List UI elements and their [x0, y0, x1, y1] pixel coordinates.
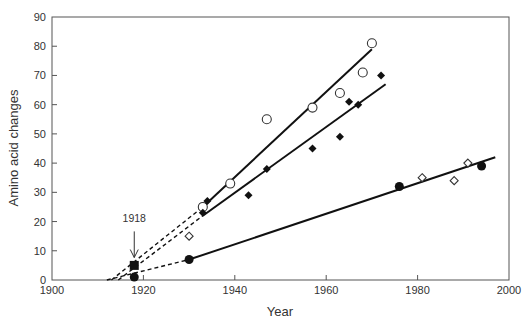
annotations: 1918	[123, 212, 147, 257]
y-tick-label: 50	[34, 128, 46, 140]
filled-diamond-marker	[308, 145, 316, 153]
open-circle-marker	[335, 88, 344, 97]
open-circle-marker	[367, 39, 376, 48]
filled-circle-marker	[395, 182, 404, 191]
plot-frame	[52, 17, 509, 280]
filled-diamond-marker	[245, 191, 253, 199]
y-axis-title: Amino acid changes	[6, 89, 21, 207]
y-tick-label: 10	[34, 245, 46, 257]
x-tick-label: 1960	[314, 284, 338, 296]
y-tick-label: 70	[34, 69, 46, 81]
filled-square-marker	[130, 261, 139, 270]
x-tick-label: 1940	[223, 284, 247, 296]
dashed-extrapolation-line	[107, 260, 189, 280]
open-circle-marker	[308, 103, 317, 112]
y-tick-label: 80	[34, 40, 46, 52]
y-tick-label: 20	[34, 216, 46, 228]
chart: 1900192019401960198020000102030405060708…	[0, 0, 530, 323]
filled-diamond-marker	[377, 71, 385, 79]
y-tick-label: 30	[34, 186, 46, 198]
annotation-label: 1918	[123, 212, 147, 224]
filled-diamond-marker	[345, 98, 353, 106]
y-tick-label: 90	[34, 11, 46, 23]
axes: 1900192019401960198020000102030405060708…	[34, 11, 521, 296]
y-tick-label: 60	[34, 99, 46, 111]
x-axis-title: Year	[267, 304, 294, 319]
filled-circle-marker	[130, 273, 139, 282]
y-tick-label: 0	[40, 274, 46, 286]
filled-diamond-marker	[336, 133, 344, 141]
open-circle-marker	[262, 115, 271, 124]
open-circle-marker	[358, 68, 367, 77]
filled-circle-marker	[477, 162, 486, 171]
dashed-extrapolation-line	[118, 216, 203, 280]
open-diamond-marker	[185, 232, 193, 240]
open-diamond-marker	[450, 177, 458, 185]
open-circle-marker	[226, 179, 235, 188]
x-tick-label: 2000	[497, 284, 521, 296]
filled-circle-marker	[185, 255, 194, 264]
regression-line	[189, 157, 495, 259]
x-tick-label: 1980	[405, 284, 429, 296]
data-points	[130, 39, 486, 282]
fit-lines	[107, 49, 495, 280]
x-tick-label: 1920	[131, 284, 155, 296]
y-tick-label: 40	[34, 157, 46, 169]
